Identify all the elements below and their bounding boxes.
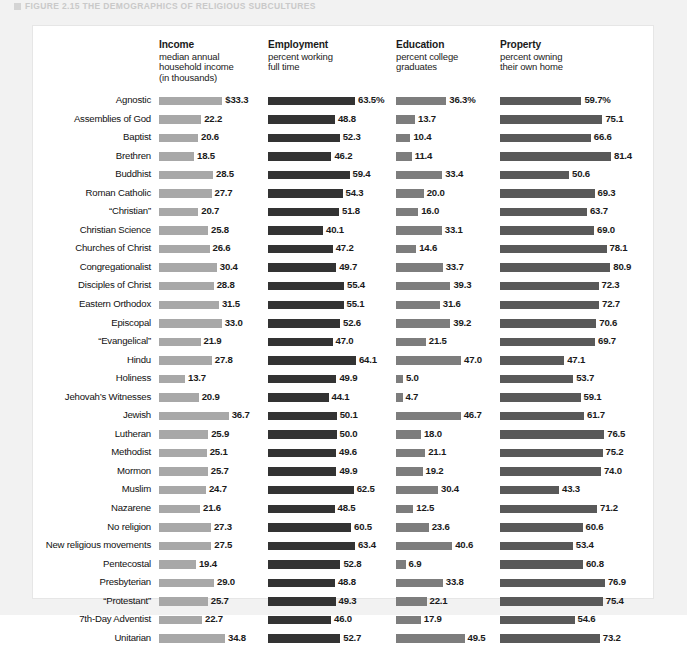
bar-cell-property: 76.9 [500, 576, 650, 590]
bar-value-label: 53.7 [576, 372, 594, 383]
bar-value-label: 25.9 [211, 428, 229, 439]
bar [396, 616, 421, 625]
row-label: Roman Catholic [33, 187, 151, 198]
chart-row: Disciples of Christ28.855.439.372.3 [33, 277, 653, 296]
bar-cell-property: 60.6 [500, 521, 650, 535]
column-header-employment: Employment percent working full time [268, 40, 333, 73]
bar [159, 208, 198, 217]
bar-value-label: 61.7 [587, 409, 605, 420]
bar-value-label: 20.7 [201, 205, 219, 216]
bar-value-label: 28.8 [217, 279, 235, 290]
bar-cell-education: 49.5 [396, 632, 498, 646]
bar-value-label: 81.4 [614, 150, 632, 161]
row-label: Baptist [33, 131, 151, 142]
bar-cell-income: 13.7 [159, 372, 266, 386]
bar-value-label: 59.7% [584, 94, 610, 105]
bar [159, 467, 208, 476]
bar-cell-property: 78.1 [500, 242, 650, 256]
chart-row: Episcopal33.052.639.270.6 [33, 315, 653, 334]
bar-cell-education: 33.1 [396, 224, 498, 238]
bar-value-label: 40.6 [455, 539, 473, 550]
bar-value-label: 47.1 [567, 354, 585, 365]
bar [396, 430, 421, 439]
bar-value-label: 30.4 [441, 483, 459, 494]
bar [268, 245, 333, 254]
bar [396, 245, 416, 254]
chart-row: Brethren18.546.211.481.4 [33, 148, 653, 167]
bar [268, 189, 343, 198]
row-label: “Evangelical” [33, 335, 151, 346]
bar [500, 115, 602, 124]
bar [159, 505, 200, 514]
bar-value-label: 72.7 [602, 298, 620, 309]
bar-value-label: 21.6 [203, 502, 221, 513]
bar [159, 338, 201, 347]
bar [159, 579, 214, 588]
bar-cell-property: 73.2 [500, 632, 650, 646]
bar-value-label: 50.0 [340, 428, 358, 439]
bar [159, 97, 222, 106]
bar-cell-education: 21.5 [396, 335, 498, 349]
bar-cell-property: 59.1 [500, 391, 650, 405]
bar-cell-education: 21.1 [396, 446, 498, 460]
bar-cell-property: 70.6 [500, 317, 650, 331]
row-label: Brethren [33, 150, 151, 161]
bar-cell-employment: 50.1 [268, 409, 394, 423]
bar-cell-income: 22.2 [159, 113, 266, 127]
bar-cell-income: 22.7 [159, 613, 266, 627]
row-label: No religion [33, 521, 151, 532]
bar [500, 301, 599, 310]
bar-cell-employment: 52.3 [268, 131, 394, 145]
bar-cell-education: 47.0 [396, 354, 498, 368]
bar-cell-income: 25.9 [159, 428, 266, 442]
bar-value-label: 50.6 [572, 168, 590, 179]
bar-cell-employment: 51.8 [268, 205, 394, 219]
bar-value-label: 26.6 [213, 242, 231, 253]
row-label: Methodist [33, 446, 151, 457]
bar-cell-education: 39.2 [396, 317, 498, 331]
column-sub3-income: (in thousands) [159, 73, 234, 84]
column-header-property: Property percent owning their own home [500, 40, 563, 73]
row-label: Jewish [33, 409, 151, 420]
bar-value-label: 19.2 [426, 465, 444, 476]
bar-value-label: 49.9 [339, 372, 357, 383]
bar-cell-property: 75.4 [500, 595, 650, 609]
bar-cell-property: 54.6 [500, 613, 650, 627]
bar-value-label: 49.5 [468, 632, 486, 643]
bar-cell-property: 69.7 [500, 335, 650, 349]
bar-cell-education: 10.4 [396, 131, 498, 145]
bar-value-label: 59.1 [584, 391, 602, 402]
bar [268, 263, 336, 272]
bar-cell-property: 69.3 [500, 187, 650, 201]
bar-value-label: 16.0 [421, 205, 439, 216]
chart-row: Baptist20.652.310.466.6 [33, 129, 653, 148]
row-label: Holiness [33, 372, 151, 383]
bar [500, 393, 581, 402]
bar-cell-employment: 54.3 [268, 187, 394, 201]
bar [396, 356, 461, 365]
bar-cell-employment: 52.6 [268, 317, 394, 331]
bar-value-label: 80.9 [613, 261, 631, 272]
bar-value-label: 12.5 [416, 502, 434, 513]
bar [268, 134, 340, 143]
bar-cell-education: 39.3 [396, 279, 498, 293]
bar [268, 412, 337, 421]
bar-cell-education: 31.6 [396, 298, 498, 312]
bar-value-label: 74.0 [604, 465, 622, 476]
bar [396, 467, 423, 476]
bar-value-label: 52.3 [343, 131, 361, 142]
row-label: Pentecostal [33, 558, 151, 569]
bar [159, 393, 199, 402]
bar-cell-education: 36.3% [396, 94, 498, 108]
bar-cell-property: 53.7 [500, 372, 650, 386]
bar-value-label: 75.2 [606, 446, 624, 457]
bar [268, 579, 335, 588]
bar-value-label: 63.5% [358, 94, 384, 105]
bar-cell-education: 13.7 [396, 113, 498, 127]
bar-cell-income: 24.7 [159, 483, 266, 497]
bar-cell-income: $33.3 [159, 94, 266, 108]
chart-row: “Christian”20.751.816.063.7 [33, 203, 653, 222]
bar-value-label: 5.0 [406, 372, 419, 383]
bar-cell-income: 25.7 [159, 465, 266, 479]
bar-cell-income: 27.8 [159, 354, 266, 368]
